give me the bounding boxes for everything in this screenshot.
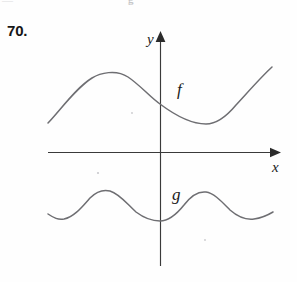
curve-label-g: g (172, 185, 181, 204)
y-axis-arrow-icon (156, 31, 166, 42)
y-axis-label: y (145, 31, 154, 47)
paper-speck (204, 239, 206, 241)
paper-speck (131, 112, 133, 114)
x-axis-label: x (271, 159, 279, 175)
curve-label-f: f (177, 80, 184, 99)
figure-page: — g ... 70. y x f g (0, 0, 297, 282)
x-axis-arrow-icon (270, 148, 281, 157)
graph-figure: y x f g (0, 0, 297, 282)
paper-speck (97, 172, 99, 174)
